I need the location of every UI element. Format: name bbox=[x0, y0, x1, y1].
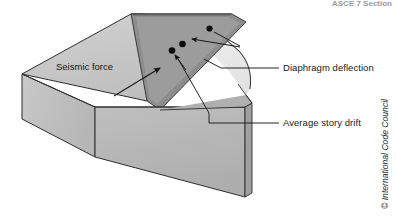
seismic-diaphragm-diagram: ASCE 7 Section Seismic force bbox=[0, 0, 398, 217]
wall-top-point-marker-icon bbox=[169, 47, 176, 54]
diaphragm-midspan-point-marker-icon bbox=[179, 41, 186, 48]
deflected-edge-point-marker-icon bbox=[206, 25, 212, 31]
front-wall-right-return bbox=[245, 103, 252, 197]
page-header-fragment: ASCE 7 Section bbox=[332, 0, 392, 8]
figure-root: ASCE 7 Section Seismic force bbox=[0, 0, 398, 217]
copyright-credit: © International Code Council bbox=[380, 98, 390, 209]
average-story-drift-label: Average story drift bbox=[283, 117, 361, 128]
front-shear-wall bbox=[95, 107, 245, 197]
diaphragm-deflection-label: Diaphragm deflection bbox=[283, 62, 374, 73]
seismic-force-label: Seismic force bbox=[56, 61, 113, 72]
